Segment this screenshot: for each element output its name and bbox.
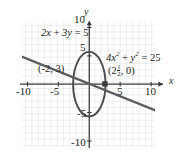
point-right-close: , 0) bbox=[121, 64, 135, 75]
point-right-open: (2 bbox=[108, 64, 117, 75]
point-label-right: (212, 0) bbox=[108, 64, 135, 78]
y-tick-5: 5 bbox=[80, 42, 86, 53]
x-axis-label: x bbox=[169, 76, 173, 86]
point-label-left: (-2, 3) bbox=[38, 64, 64, 75]
graph-canvas bbox=[0, 0, 180, 161]
coordinate-graph-figure: x y -10 -5 5 10 10 5 -5 -10 2x + 3y = 5 … bbox=[0, 0, 180, 161]
intersection-point-marker bbox=[102, 81, 107, 86]
ellipse-equation-label: 4x2 + y2 = 25 bbox=[106, 51, 160, 63]
y-tick-10: 10 bbox=[74, 14, 85, 25]
y-tick-neg5: -5 bbox=[77, 108, 86, 119]
y-tick-neg10: -10 bbox=[71, 137, 86, 148]
x-tick-10: 10 bbox=[145, 86, 156, 97]
x-tick-neg10: -10 bbox=[16, 86, 31, 97]
x-tick-neg5: -5 bbox=[50, 86, 59, 97]
line-equation-label: 2x + 3y = 5 bbox=[41, 28, 88, 39]
x-tick-5: 5 bbox=[117, 86, 123, 97]
